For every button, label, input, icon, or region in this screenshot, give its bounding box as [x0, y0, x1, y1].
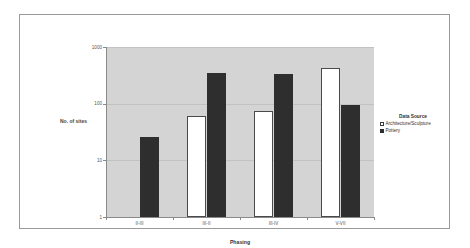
x-tick-label: V-VII [307, 221, 374, 226]
x-tick-mark [240, 217, 241, 220]
bar-pottery [207, 73, 226, 217]
x-tick-mark [307, 217, 308, 220]
x-tick-mark [106, 217, 107, 220]
legend-swatch-architecture-icon [380, 122, 384, 126]
legend-entry: Architecture/Sculpture [380, 121, 466, 127]
legend-label: Pottery [386, 128, 401, 134]
y-tick-label: 10 [76, 158, 102, 163]
y-tick-label: 1 [76, 215, 102, 220]
x-tick-mark [374, 217, 375, 220]
y-tick-label: 1000 [76, 45, 102, 50]
bar-architecture [254, 111, 273, 217]
gridline [106, 47, 374, 48]
x-axis-title: Phasing [106, 239, 374, 245]
legend-swatch-pottery-icon [380, 129, 384, 133]
y-tick-mark [103, 160, 106, 161]
legend-label: Architecture/Sculpture [386, 121, 431, 127]
y-axis-title: No. of sites [60, 118, 87, 124]
x-tick-label: III-IV [240, 221, 307, 226]
y-tick-mark [103, 47, 106, 48]
y-tick-mark [103, 104, 106, 105]
y-axis-line [106, 47, 107, 217]
legend-entries: Architecture/SculpturePottery [380, 121, 466, 134]
bar-architecture [321, 68, 340, 217]
bar-pottery [341, 105, 360, 217]
legend-entry: Pottery [380, 128, 466, 134]
bar-pottery [274, 74, 293, 217]
bar-pottery [140, 137, 159, 217]
chart-figure: 1000100101 II-IIIIII-IIIII-IVV-VII No. o… [0, 0, 470, 248]
legend-title: Data Source [382, 114, 444, 120]
bar-architecture [187, 116, 206, 217]
chart-frame: 1000100101 II-IIIIII-IIIII-IVV-VII No. o… [19, 14, 450, 229]
x-tick-label: II-III [106, 221, 173, 226]
chart-legend: Data Source Architecture/SculpturePotter… [380, 114, 466, 134]
y-tick-label: 100 [76, 101, 102, 106]
x-tick-mark [173, 217, 174, 220]
x-tick-label: III-II [173, 221, 240, 226]
